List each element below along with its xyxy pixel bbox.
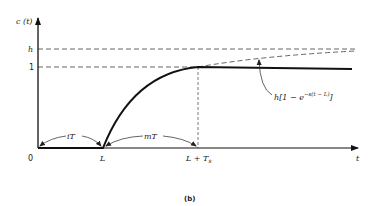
y-axis-label: c (t)	[16, 17, 32, 26]
response-curve	[38, 67, 352, 148]
x-tick-L-plus-Ts: L + Ts	[185, 154, 212, 164]
iT-label: iT	[67, 132, 76, 141]
iT-interval-arrow-left	[40, 136, 66, 146]
mT-label: mT	[144, 132, 158, 141]
figure-caption: (b)	[184, 195, 195, 203]
x-tick-L: L	[99, 154, 105, 163]
curve-annotation: h[1 − e−s(t − L)]	[274, 91, 334, 102]
y-tick-one: 1	[29, 63, 34, 72]
annotation-pointer-arrow	[259, 60, 272, 95]
y-tick-h: h	[28, 45, 33, 54]
iT-interval-arrow-right	[82, 136, 101, 146]
exponential-continuation-dashed	[198, 51, 355, 67]
mT-interval-arrow-left	[106, 136, 143, 146]
mT-interval-arrow-right	[163, 136, 196, 146]
x-axis-label: t	[356, 154, 360, 163]
x-tick-origin: 0	[28, 154, 33, 163]
step-response-diagram: c (t) h 1 0 L L + Ts t iT mT h[1 − e−s(t…	[0, 0, 379, 206]
